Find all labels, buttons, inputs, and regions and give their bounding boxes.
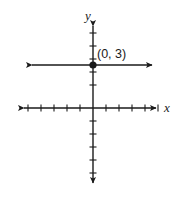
y-axis — [90, 26, 97, 183]
data-point-label: (0, 3) — [97, 47, 126, 61]
coordinate-plane-figure: (0, 3) x y — [0, 0, 193, 198]
data-point-marker — [89, 61, 96, 68]
x-axis — [24, 105, 158, 112]
y-axis-label: y — [83, 8, 91, 23]
x-axis-label: x — [163, 100, 170, 115]
coordinate-plane-svg: (0, 3) x y — [0, 0, 193, 198]
